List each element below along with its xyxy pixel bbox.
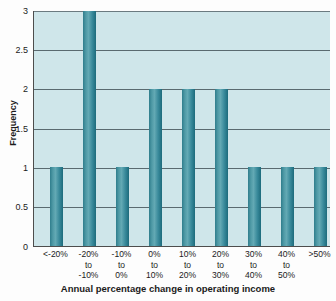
x-tick-label-line: to: [204, 260, 237, 271]
y-tick-label: 2: [23, 85, 28, 94]
x-tick-label-line: to: [171, 260, 204, 271]
gridline: [34, 50, 330, 51]
x-tick-label: -20%to-10%: [72, 249, 105, 281]
x-tick-label: >50%: [303, 249, 336, 260]
histogram-figure: Frequency 00.511.522.53 <-20%-20%to-10%-…: [0, 0, 336, 301]
x-tick-label: 0%to10%: [138, 249, 171, 281]
x-tick-label-line: 0%: [105, 270, 138, 281]
x-tick-label-line: 50%: [270, 270, 303, 281]
bar: [83, 11, 97, 246]
x-tick-label: <-20%: [39, 249, 72, 260]
x-tick-label-line: to: [72, 260, 105, 271]
bar: [281, 167, 295, 246]
x-tick-label: 10%to20%: [171, 249, 204, 281]
bar: [149, 89, 163, 246]
x-tick-label-line: to: [138, 260, 171, 271]
x-tick-label-line: -10%: [72, 270, 105, 281]
x-tick-label-line: to: [105, 260, 138, 271]
bar: [182, 89, 196, 246]
x-tick-label-line: 0%: [138, 249, 171, 260]
y-tick-label: 1: [23, 164, 28, 173]
bar: [50, 167, 64, 246]
x-tick-label-line: 20%: [204, 249, 237, 260]
x-tick-label-line: 30%: [237, 249, 270, 260]
y-tick-label: 0.5: [15, 203, 28, 212]
x-tick-label-line: 30%: [204, 270, 237, 281]
x-tick-label: -10%to0%: [105, 249, 138, 281]
y-tick-label: 0: [23, 243, 28, 252]
gridline: [34, 11, 330, 12]
x-axis-title: Annual percentage change in operating in…: [0, 283, 336, 294]
x-tick-label-line: 20%: [171, 270, 204, 281]
bar: [116, 167, 130, 246]
y-tick-label: 1.5: [15, 125, 28, 134]
x-tick-label-line: -20%: [72, 249, 105, 260]
x-tick-label-line: 10%: [171, 249, 204, 260]
plot-area: [33, 11, 330, 247]
x-tick-label: 30%to40%: [237, 249, 270, 281]
x-tick-label: 40%to50%: [270, 249, 303, 281]
bar: [314, 167, 328, 246]
x-tick-label-line: -10%: [105, 249, 138, 260]
x-axis-tick-labels: <-20%-20%to-10%-10%to0%0%to10%10%to20%20…: [33, 249, 330, 285]
bar: [215, 89, 229, 246]
bar: [248, 167, 262, 246]
x-tick-label: 20%to30%: [204, 249, 237, 281]
x-tick-label-line: >50%: [303, 249, 336, 260]
x-tick-label-line: 40%: [237, 270, 270, 281]
x-tick-label-line: 10%: [138, 270, 171, 281]
x-tick-label-line: 40%: [270, 249, 303, 260]
y-tick-label: 3: [23, 7, 28, 16]
y-tick-label: 2.5: [15, 46, 28, 55]
y-axis-tick-labels: 00.511.522.53: [0, 0, 31, 301]
x-tick-label-line: <-20%: [39, 249, 72, 260]
x-tick-label-line: to: [270, 260, 303, 271]
x-tick-label-line: to: [237, 260, 270, 271]
